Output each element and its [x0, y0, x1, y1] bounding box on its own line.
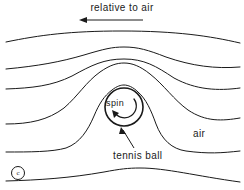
diagram-canvas: [0, 0, 244, 190]
streamline-2: [6, 47, 240, 69]
copyright-icon: c: [11, 166, 25, 180]
tennis-ball-airflow-diagram: relative to air spin air tennis ball c: [0, 0, 244, 190]
streamline-6: [6, 168, 240, 182]
streamline-1: [6, 31, 240, 43]
flow-direction-arrow: [79, 17, 143, 23]
tennis-ball-label: tennis ball: [113, 150, 162, 161]
spin-label: spin: [106, 98, 124, 108]
air-label: air: [193, 128, 205, 139]
left-arrow-icon: [79, 17, 87, 23]
page-title: relative to air: [0, 2, 244, 13]
leader-arrow-icon: [119, 127, 134, 148]
